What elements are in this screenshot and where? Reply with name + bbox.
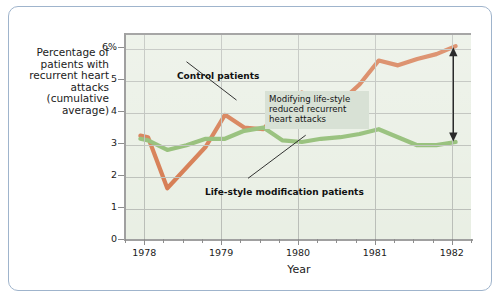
figure-container: Percentage of patients with recurrent he… [8,6,492,291]
difference-arrow-head-top [449,47,457,56]
difference-arrow-head-bottom [449,133,457,142]
control-leader-line [187,62,237,100]
annotation-overlay [9,7,493,292]
lifestyle-leader-line [248,135,306,178]
